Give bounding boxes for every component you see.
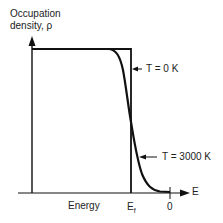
tick-ef-sub: f [134, 207, 136, 214]
tick-ef-main: E [127, 201, 134, 212]
tick-fermi-energy: Ef [127, 201, 136, 216]
tick-zero: 0 [167, 201, 173, 212]
t0k-arrow-icon [132, 67, 138, 72]
y-axis-label-line1: Occupation [10, 8, 61, 19]
y-axis-label-line2: density, ρ [10, 20, 52, 31]
t3000k-arrow-icon [139, 155, 146, 160]
x-axis-arrow-icon [180, 190, 190, 197]
fermi-dirac-chart [0, 0, 223, 223]
annotation-t3000k: T = 3000 K [162, 151, 211, 162]
annotation-t0k: T = 0 K [146, 63, 178, 74]
x-axis-label: Energy [68, 200, 100, 211]
series-t0k [32, 49, 131, 193]
y-axis-arrow-icon [29, 36, 36, 46]
x-axis-symbol: E [192, 186, 199, 197]
